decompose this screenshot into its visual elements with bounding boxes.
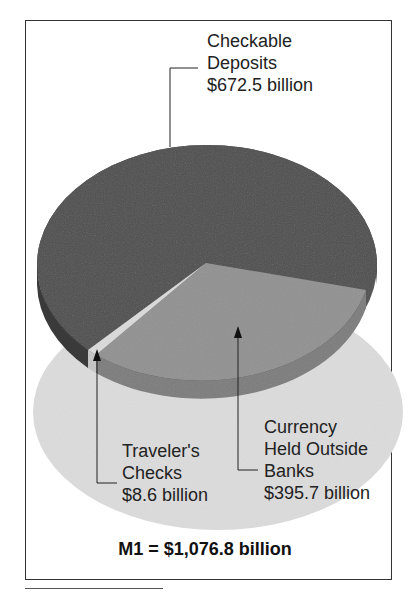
label-value: $672.5 billion [207,74,313,96]
label-text: Banks [264,460,370,482]
label-text: Currency [264,416,370,438]
label-text: Checks [122,462,208,484]
label-currency: Currency Held Outside Banks $395.7 billi… [264,416,370,504]
m1-total: M1 = $1,076.8 billion [0,539,410,560]
leader-checkable [170,68,198,147]
label-value: $395.7 billion [264,482,370,504]
label-text: Deposits [207,52,313,74]
label-value: $8.6 billion [122,484,208,506]
label-text: Held Outside [264,438,370,460]
label-text: Traveler's [122,440,208,462]
label-checkable-deposits: Checkable Deposits $672.5 billion [207,30,313,96]
label-text: Checkable [207,30,313,52]
label-travelers-checks: Traveler's Checks $8.6 billion [122,440,208,506]
